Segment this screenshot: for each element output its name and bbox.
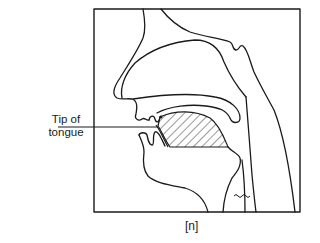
label-line-2: tongue: [38, 126, 94, 139]
tongue-hatched: [158, 112, 228, 147]
vocal-folds-icon: [234, 195, 250, 198]
phoneme-caption: [n]: [185, 220, 198, 233]
pharynx-wall: [246, 97, 256, 212]
label-line-1: Tip of: [38, 113, 94, 126]
tip-of-tongue-label: Tip of tongue: [38, 113, 94, 139]
pharynx-upper: [161, 9, 295, 212]
face-profile: [114, 9, 149, 120]
nasal-cavity: [122, 40, 246, 98]
upper-teeth: [149, 116, 160, 122]
larynx: [242, 160, 245, 212]
throat: [223, 147, 240, 212]
tongue-tip-marker: [160, 116, 163, 119]
